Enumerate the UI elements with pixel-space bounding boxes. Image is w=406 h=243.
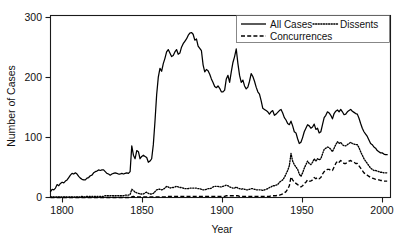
y-tick-label-300: 300: [24, 11, 42, 23]
y-tick-label-0: 0: [36, 191, 42, 203]
y-tick-label-100: 100: [24, 131, 42, 143]
y-axis-tick-labels: 0 100 200 300: [24, 11, 42, 203]
x-tick-label-1800: 1800: [50, 204, 74, 216]
legend-label-all-cases: All Cases: [270, 19, 312, 30]
x-tick-label-1850: 1850: [130, 204, 154, 216]
y-axis-title: Number of Cases: [5, 65, 17, 147]
legend-label-concurrences: Concurrences: [270, 31, 332, 42]
x-tick-label-1900: 1900: [210, 204, 234, 216]
x-axis-tick-labels: 1800 1850 1900 1950 2000: [50, 204, 394, 216]
chart-legend: All Cases Dissents Concurrences: [237, 16, 390, 43]
y-tick-label-200: 200: [24, 71, 42, 83]
x-axis-ticks: [63, 198, 383, 203]
x-axis-title: Year: [211, 223, 233, 235]
x-tick-label-1950: 1950: [290, 204, 314, 216]
y-axis-ticks: [46, 18, 51, 198]
legend-label-dissents: Dissents: [340, 19, 378, 30]
line-chart: 0 100 200 300 1800 1850 1900 1950 2000 Y…: [0, 0, 406, 243]
x-tick-label-2000: 2000: [370, 204, 394, 216]
chart-figure: 0 100 200 300 1800 1850 1900 1950 2000 Y…: [0, 0, 406, 243]
